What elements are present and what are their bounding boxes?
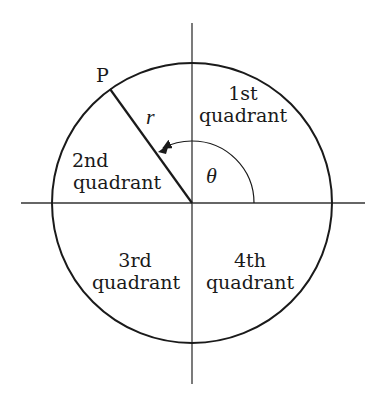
point-p-label: P — [96, 64, 109, 86]
polar-quadrant-diagram: P r θ 1st quadrant 2nd quadrant 3rd quad… — [0, 0, 382, 404]
theta-label: θ — [206, 163, 217, 188]
arrowhead-icon — [158, 144, 169, 154]
radius-r-label: r — [146, 104, 155, 129]
quadrant-3-line1: 3rd — [118, 249, 151, 271]
quadrant-4-line2: quadrant — [206, 271, 295, 293]
quadrant-4-line1: 4th — [234, 249, 266, 271]
quadrant-1-line1: 1st — [228, 82, 258, 104]
quadrant-3-line2: quadrant — [92, 271, 181, 293]
quadrant-2-line1: 2nd — [72, 149, 109, 171]
quadrant-1-line2: quadrant — [199, 104, 288, 126]
quadrant-2-line2: quadrant — [73, 171, 162, 193]
